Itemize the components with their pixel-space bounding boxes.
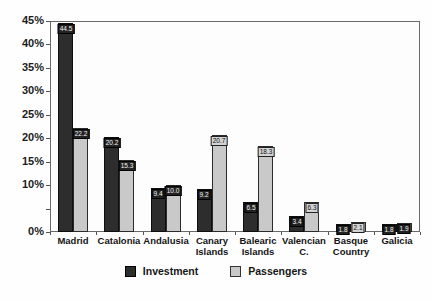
- legend-item-passengers: Passengers: [230, 265, 307, 277]
- investment-value-label-canary-islands: 9.2: [197, 190, 210, 200]
- x-tick-7: [374, 232, 375, 235]
- x-tick-3: [189, 232, 190, 235]
- y-axis-label-15: 15%: [0, 155, 44, 167]
- legend: Investment Passengers: [0, 265, 432, 277]
- y-tick-30: [46, 91, 50, 92]
- y-axis-label-30: 30%: [0, 84, 44, 96]
- x-tick-4: [235, 232, 236, 235]
- passengers-bar-canary-islands: [212, 135, 227, 232]
- investment-value-label-valencian-c: 3.4: [290, 217, 303, 227]
- passengers-value-label-madrid: 22.2: [73, 129, 90, 139]
- passengers-value-label-catalonia: 15.3: [119, 161, 136, 171]
- investment-value-label-balearic-islands: 6.5: [244, 203, 257, 213]
- passengers-value-label-basque-country: 2.1: [351, 223, 364, 233]
- legend-label-passengers: Passengers: [248, 265, 307, 277]
- y-tick-35: [46, 68, 50, 69]
- y-tick-40: [46, 44, 50, 45]
- passengers-value-label-valencian-c: 6.3: [305, 203, 318, 213]
- y-tick-25: [46, 115, 50, 116]
- passengers-bar-balearic-islands: [258, 146, 273, 232]
- passengers-swatch-icon: [230, 266, 241, 277]
- passengers-value-label-canary-islands: 20.7: [211, 136, 228, 146]
- investment-value-label-catalonia: 20.2: [104, 138, 121, 148]
- x-axis-label-catalonia: Catalonia: [92, 236, 146, 247]
- y-axis-label-25: 25%: [0, 108, 44, 120]
- investment-value-label-andalusia: 9.4: [151, 189, 164, 199]
- y-axis-label-20: 20%: [0, 131, 44, 143]
- investment-swatch-icon: [125, 266, 136, 277]
- legend-label-investment: Investment: [143, 265, 198, 277]
- y-tick-20: [46, 138, 50, 139]
- x-axis-label-valencian-c: Valencian C.: [277, 236, 331, 257]
- x-tick-1: [96, 232, 97, 235]
- bar-chart: 0%10%15%20%25%30%35%40%45%44.522.2Madrid…: [0, 0, 432, 301]
- y-axis-label-10: 10%: [0, 178, 44, 190]
- y-tick-5: [46, 209, 50, 210]
- investment-value-label-madrid: 44.5: [58, 24, 75, 34]
- investment-value-label-galicia: 1.8: [382, 225, 395, 235]
- investment-value-label-basque-country: 1.8: [336, 225, 349, 235]
- x-tick-8: [420, 232, 421, 235]
- investment-bar-madrid: [58, 23, 73, 232]
- passengers-value-label-galicia: 1.9: [397, 224, 410, 234]
- y-axis-label-35: 35%: [0, 61, 44, 73]
- passengers-bar-madrid: [73, 128, 88, 232]
- x-tick-6: [328, 232, 329, 235]
- y-tick-15: [46, 162, 50, 163]
- x-axis-label-galicia: Galicia: [370, 236, 424, 247]
- passengers-value-label-balearic-islands: 18.3: [258, 147, 275, 157]
- x-tick-0: [50, 232, 51, 235]
- y-axis-label-0: 0%: [0, 225, 44, 237]
- y-axis-label-45: 45%: [0, 14, 44, 26]
- passengers-value-label-andalusia: 10.0: [165, 186, 182, 196]
- legend-item-investment: Investment: [125, 265, 198, 277]
- y-tick-45: [46, 21, 50, 22]
- investment-bar-catalonia: [104, 137, 119, 232]
- y-tick-10: [46, 185, 50, 186]
- y-axis-label-40: 40%: [0, 37, 44, 49]
